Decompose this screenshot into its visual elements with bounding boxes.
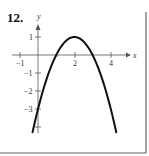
parabola-curve — [33, 37, 117, 132]
x-axis: x −1 2 4 — [12, 51, 137, 68]
y-tick-label: 1 — [29, 33, 33, 42]
parabola-graph: x −1 2 4 y 1 −1 −2 −3 — [0, 0, 149, 156]
x-axis-arrow-icon — [126, 53, 131, 58]
y-tick-label: −3 — [24, 105, 33, 114]
y-axis-arrow-icon — [36, 24, 41, 30]
y-axis: y 1 −1 −2 −3 — [24, 12, 41, 133]
x-tick-label: 4 — [109, 59, 113, 68]
figure-panel: 12. x −1 2 4 y — [0, 0, 149, 156]
y-tick-label: −2 — [24, 87, 33, 96]
y-tick-label: −1 — [24, 69, 33, 78]
x-tick-label: 2 — [73, 59, 77, 68]
y-axis-label: y — [36, 12, 41, 21]
x-tick-label: −1 — [16, 59, 25, 68]
x-axis-label: x — [132, 51, 137, 60]
